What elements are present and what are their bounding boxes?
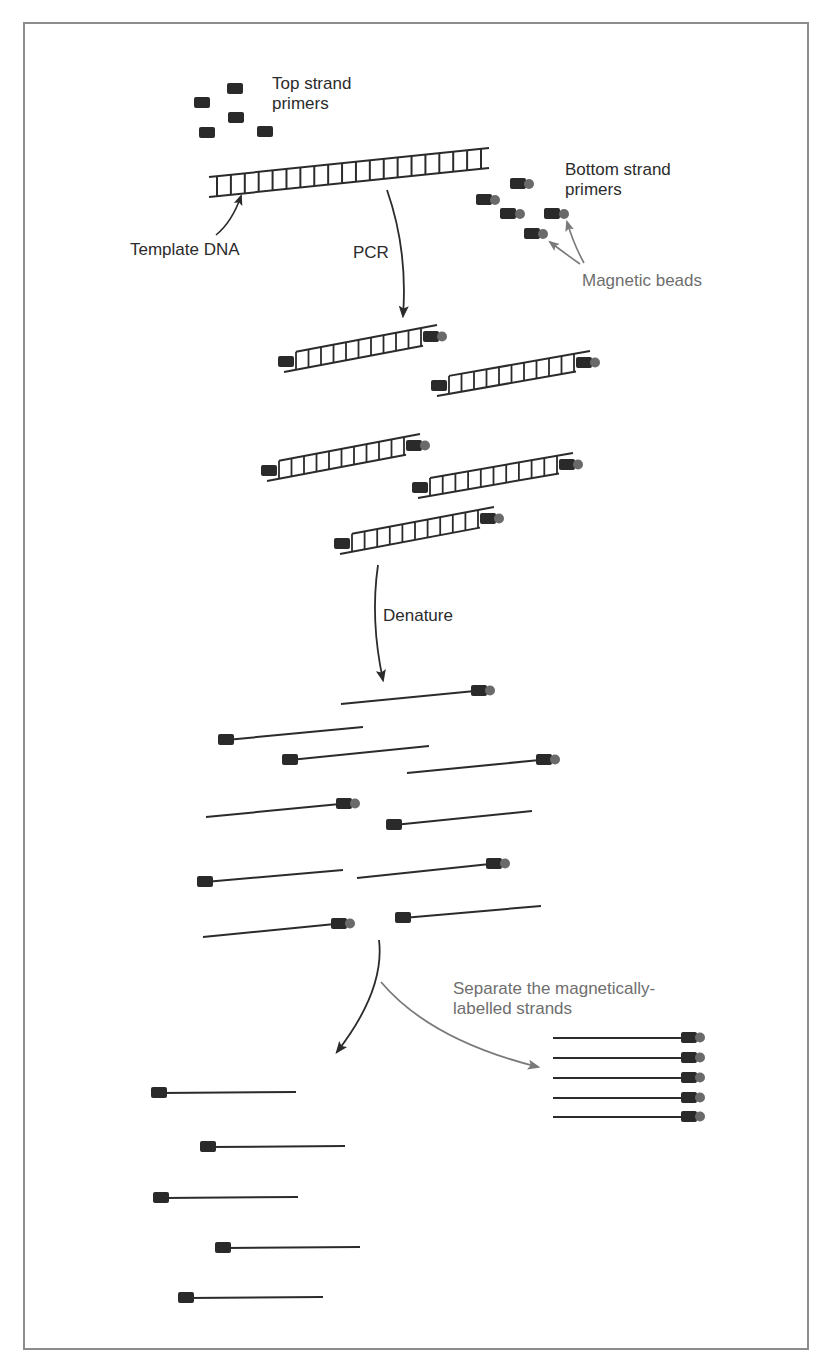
primer-icon [336, 798, 352, 809]
label-line: labelled strands [453, 999, 655, 1019]
primer-icon [331, 918, 347, 929]
primer-icon [228, 112, 244, 123]
pcr-product [334, 507, 504, 554]
pcr-product [278, 325, 447, 372]
label-line: primers [272, 94, 351, 114]
magnetic-strand [553, 1072, 705, 1083]
magnetic-strand [553, 1052, 705, 1063]
bead-labelled-strand [357, 858, 510, 878]
denature-arrow [375, 565, 383, 680]
denature-label: Denature [383, 606, 453, 626]
primer-icon [559, 459, 575, 470]
primer-icon [576, 357, 592, 368]
template-dna-label: Template DNA [130, 240, 240, 260]
separated-magnetic-strands [553, 1032, 705, 1122]
primer-icon [194, 97, 210, 108]
primer-icon [681, 1111, 697, 1122]
magnetic-bead-icon [420, 441, 430, 451]
magnetic-bead-icon [485, 686, 495, 696]
unlabelled-strand [178, 1292, 323, 1303]
unlabelled-strand [386, 811, 532, 830]
template-pointer-arrow [216, 196, 241, 235]
label-line: Top strand [272, 74, 351, 94]
bottom-strand-primers [476, 178, 569, 239]
pcr-products [261, 325, 600, 554]
primer-icon [257, 126, 273, 137]
bead-labelled-strand [206, 798, 360, 817]
primer-icon [412, 482, 428, 493]
primer-icon [199, 127, 215, 138]
bottom-strand-primers-label: Bottom strand primers [565, 160, 671, 200]
magnetic-bead-icon [350, 799, 360, 809]
unlabelled-strand [215, 1242, 360, 1253]
unlabelled-strand [197, 870, 343, 887]
separate-strands-label: Separate the magnetically- labelled stra… [453, 979, 655, 1019]
magnetic-bead-icon [437, 332, 447, 342]
top-strand-primers-label: Top strand primers [272, 74, 351, 114]
unlabelled-strand [200, 1141, 345, 1152]
top-strand-primers [194, 83, 273, 138]
unlabelled-strand [282, 746, 429, 765]
bead-labelled-strand [341, 685, 495, 704]
primer-icon [681, 1072, 697, 1083]
primer-icon [406, 440, 422, 451]
primer-icon [153, 1192, 169, 1203]
unlabelled-strand [151, 1087, 296, 1098]
magnetic-bead-icon [590, 358, 600, 368]
primer-icon [480, 513, 496, 524]
magnetic-bead-icon [695, 1053, 705, 1063]
primer-icon [278, 356, 294, 367]
primer-icon [178, 1292, 194, 1303]
pcr-product [261, 434, 430, 481]
primer-icon [218, 734, 234, 745]
magnetic-bead-icon [695, 1033, 705, 1043]
pcr-product [431, 351, 600, 396]
primer-icon [423, 331, 439, 342]
unlabelled-strand [153, 1192, 298, 1203]
label-line: primers [565, 180, 671, 200]
primer-icon [282, 754, 298, 765]
magnetic-strand [553, 1092, 705, 1103]
magnetic-bead-icon [695, 1112, 705, 1122]
denatured-strands [197, 685, 560, 937]
magnetic-bead-icon [500, 859, 510, 869]
primer-icon [431, 380, 447, 391]
magnetic-strand [553, 1111, 705, 1122]
unlabelled-strand [395, 906, 541, 923]
pcr-arrow [387, 190, 404, 316]
magnetic-bead-icon [494, 514, 504, 524]
bead-primer-icon [544, 208, 569, 219]
bead-primer-icon [500, 208, 525, 219]
magnetic-bead-icon [550, 755, 560, 765]
bead-labelled-strand [203, 918, 355, 937]
primer-icon [197, 876, 213, 887]
primer-icon [681, 1092, 697, 1103]
magnetic-strand [553, 1032, 705, 1043]
label-line: Separate the magnetically- [453, 979, 655, 999]
unlabelled-strands-arrow [337, 940, 380, 1052]
primer-icon [681, 1052, 697, 1063]
magnetic-bead-icon [695, 1093, 705, 1103]
unlabelled-strand [218, 727, 363, 745]
pcr-diagram [0, 0, 820, 1372]
bead-primer-icon [476, 194, 500, 205]
pcr-product [412, 453, 583, 498]
primer-icon [334, 538, 350, 549]
primer-icon [386, 819, 402, 830]
template-dna-ladder [209, 148, 489, 197]
magnetic-bead-icon [695, 1073, 705, 1083]
primer-icon [151, 1087, 167, 1098]
separated-unlabelled-strands [151, 1087, 360, 1303]
primer-icon [200, 1141, 216, 1152]
bead-labelled-strand [407, 754, 560, 773]
primer-icon [486, 858, 502, 869]
primer-icon [227, 83, 243, 94]
primer-icon [395, 912, 411, 923]
primer-icon [261, 465, 277, 476]
magnetic-bead-icon [345, 919, 355, 929]
bead-primer-icon [510, 178, 534, 189]
primer-icon [681, 1032, 697, 1043]
primer-icon [215, 1242, 231, 1253]
primer-icon [471, 685, 487, 696]
magnetic-bead-icon [573, 460, 583, 470]
